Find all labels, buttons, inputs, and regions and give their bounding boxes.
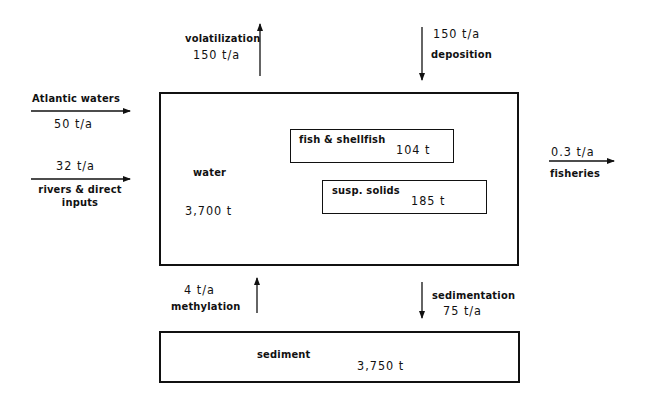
water-label: water [193, 166, 226, 179]
sediment-label: sediment [257, 348, 311, 361]
deposition-label: deposition [431, 48, 492, 61]
fish-label: fish & shellfish [299, 133, 385, 146]
sediment-compartment [159, 331, 520, 383]
water-compartment [159, 92, 519, 266]
fisheries-value: 0.3 t/a [551, 145, 595, 158]
volatilization-value: 150 t/a [193, 48, 240, 61]
rivers-label-line1: rivers & direct [38, 183, 121, 196]
atlantic-value: 50 t/a [54, 117, 93, 130]
sediment-amount: 3,750 t [357, 359, 404, 372]
susp-amount: 185 t [411, 194, 445, 207]
fisheries-label: fisheries [550, 167, 600, 180]
sedimentation-label: sedimentation [432, 289, 515, 302]
sedimentation-value: 75 t/a [443, 304, 482, 317]
methylation-value: 4 t/a [184, 283, 215, 296]
methylation-label: methylation [171, 300, 241, 313]
atlantic-label: Atlantic waters [32, 92, 120, 105]
volatilization-label: volatilization [185, 32, 260, 45]
rivers-label: rivers & direct inputs [30, 183, 130, 209]
rivers-value: 32 t/a [56, 159, 95, 172]
susp-label: susp. solids [332, 184, 400, 197]
rivers-label-line2: inputs [62, 196, 98, 209]
deposition-value: 150 t/a [433, 27, 480, 40]
fish-amount: 104 t [396, 143, 430, 156]
water-amount: 3,700 t [185, 204, 232, 217]
